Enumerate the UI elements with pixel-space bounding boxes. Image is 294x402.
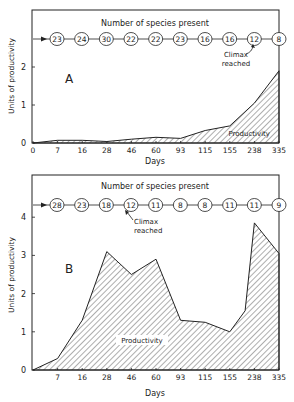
panel-b-species-row: 28231812118811119	[33, 199, 286, 212]
panel-a-label: A	[65, 72, 74, 86]
chart-canvas: Number of species present 23243022222316…	[0, 0, 294, 402]
panel-b-climax-label-2: reached	[134, 227, 162, 235]
y-tick-label: 2	[21, 290, 26, 299]
panel-a-x-label: Days	[145, 157, 165, 166]
x-tick-label: 28	[102, 146, 112, 155]
species-count: 16	[225, 35, 235, 44]
x-tick-label: 115	[198, 146, 213, 155]
species-count: 8	[277, 35, 282, 44]
x-tick-label: 0	[31, 146, 36, 155]
panel-b-climax-label-1: Climax	[134, 218, 158, 226]
x-tick-label: 238	[247, 373, 262, 382]
species-count: 8	[178, 201, 183, 210]
x-tick-label: 46	[127, 373, 137, 382]
x-tick-label: 28	[102, 373, 112, 382]
y-tick-label: 4	[21, 213, 26, 222]
panel-a-climax-label-2: reached	[222, 60, 250, 68]
species-count: 30	[102, 35, 112, 44]
species-count: 22	[126, 35, 136, 44]
panel-a: Number of species present 23243022222316…	[7, 10, 286, 166]
x-tick-label: 93	[176, 373, 186, 382]
species-count: 12	[250, 35, 260, 44]
species-count: 16	[200, 35, 210, 44]
species-count: 12	[126, 201, 136, 210]
panel-a-y-axis: 012	[21, 63, 35, 148]
x-tick-label: 155	[223, 146, 238, 155]
species-count: 9	[277, 201, 282, 210]
panel-b-climax-arrow	[127, 212, 133, 220]
panel-b-label: B	[65, 262, 73, 276]
y-tick-label: 0	[21, 366, 26, 375]
x-tick-label: 46	[127, 146, 137, 155]
species-count: 23	[52, 35, 62, 44]
panel-b-y-label: Units of productivity	[7, 236, 16, 313]
x-tick-label: 60	[151, 146, 161, 155]
species-count: 23	[77, 201, 87, 210]
y-tick-label: 3	[21, 251, 26, 260]
x-tick-label: 7	[55, 146, 60, 155]
arrow-right-icon	[41, 203, 47, 208]
panel-b: Number of species present 28231812118811…	[7, 175, 286, 398]
panel-b-productivity-label: Productivity	[121, 337, 163, 345]
x-tick-label: 60	[151, 373, 161, 382]
species-count: 24	[77, 35, 87, 44]
species-count: 11	[225, 201, 235, 210]
y-tick-label: 2	[21, 63, 26, 72]
x-tick-label: 335	[272, 373, 287, 382]
species-count: 11	[250, 201, 260, 210]
panel-b-y-axis: 01234	[21, 213, 35, 375]
x-tick-label: 7	[55, 373, 60, 382]
x-tick-label: 335	[272, 146, 287, 155]
panel-b-x-label: Days	[145, 389, 165, 398]
x-tick-label: 16	[77, 146, 87, 155]
x-tick-label: 155	[223, 373, 238, 382]
species-count: 28	[52, 201, 62, 210]
species-count: 18	[102, 201, 112, 210]
panel-a-y-label: Units of productivity	[7, 37, 16, 114]
species-count: 22	[151, 35, 161, 44]
y-tick-label: 1	[21, 101, 26, 110]
x-tick-label: 16	[77, 373, 87, 382]
panel-b-productivity-area	[33, 223, 279, 370]
x-tick-label: 115	[198, 373, 213, 382]
panel-a-productivity-label: Productivity	[229, 130, 271, 138]
x-tick-label: 93	[176, 146, 186, 155]
panel-a-species-row: 2324302222231616128	[33, 33, 286, 46]
species-count: 23	[176, 35, 186, 44]
species-count: 11	[151, 201, 161, 210]
x-tick-label: 238	[247, 146, 262, 155]
arrow-right-icon	[41, 37, 47, 42]
panel-a-climax-label-1: Climax	[224, 51, 248, 59]
y-tick-label: 1	[21, 328, 26, 337]
panel-a-species-title: Number of species present	[101, 19, 209, 28]
panel-b-species-title: Number of species present	[101, 182, 209, 191]
species-count: 8	[203, 201, 208, 210]
y-tick-label: 0	[21, 139, 26, 148]
